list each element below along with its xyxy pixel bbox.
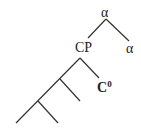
edge-branch-1 [60, 79, 80, 101]
cp-label: CP [75, 40, 92, 55]
syntax-tree: α CP α C0 [0, 0, 141, 128]
c0-superscript: 0 [107, 79, 112, 89]
edge-cp-c0 [80, 58, 99, 78]
edge-root-alpha [106, 19, 129, 41]
c0-head: C [97, 80, 107, 95]
edge-root-cp [88, 19, 106, 38]
edge-branch-2 [38, 101, 58, 123]
root-label: α [101, 5, 109, 20]
c0-label: C0 [97, 79, 112, 95]
right-alpha-label: α [126, 41, 134, 56]
